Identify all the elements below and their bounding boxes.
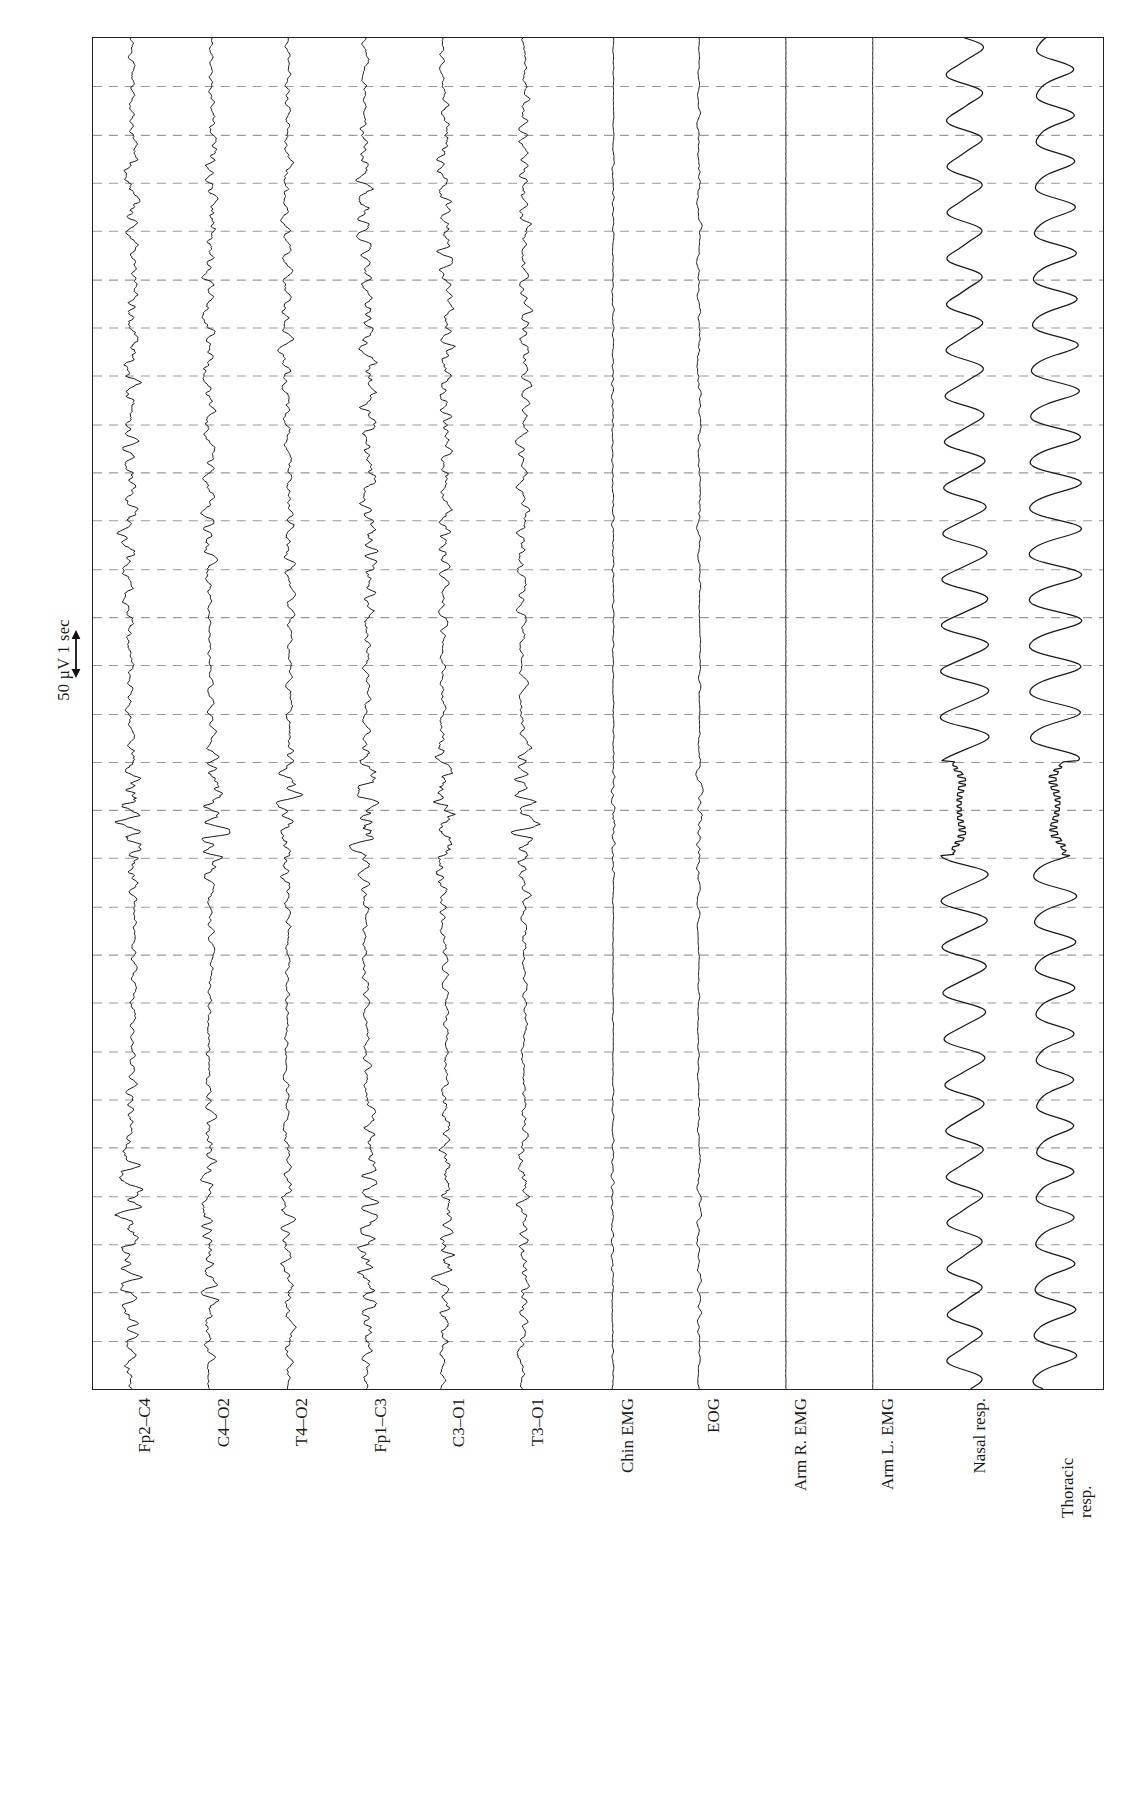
- trace-plot-area: [92, 37, 1104, 1390]
- channel-label-thoracic-resp: Thoracicresp.: [1059, 1398, 1096, 1518]
- channel-label-arm-r-emg: Arm R. EMG: [792, 1398, 810, 1491]
- trace-t3-o1: [511, 38, 540, 1389]
- channel-label-chin-emg: Chin EMG: [619, 1398, 637, 1473]
- trace-eog: [696, 38, 703, 1389]
- signal-traces: [93, 38, 1103, 1389]
- trace-c4-o2: [200, 38, 230, 1389]
- channel-label-eog: EOG: [705, 1398, 723, 1433]
- trace-fp1-c3: [349, 38, 379, 1389]
- double-headed-arrow-icon: [68, 630, 84, 678]
- channel-label-arm-l-emg: Arm L. EMG: [879, 1398, 897, 1490]
- channel-label-c3-o1: C3–O1: [450, 1398, 468, 1447]
- channel-label-line2: resp.: [1078, 1398, 1096, 1518]
- channel-label-line1: Thoracic: [1058, 1458, 1077, 1518]
- trace-thoracic-resp: [1029, 38, 1081, 1389]
- channel-label-nasal-resp: Nasal resp.: [971, 1398, 989, 1474]
- trace-nasal-resp: [940, 38, 989, 1389]
- channel-label-t3-o1: T3–O1: [529, 1398, 547, 1446]
- figure-canvas: 50 µV 1 sec Fp2–C4C4–O2T4–O2Fp1–C3C3–O1T…: [0, 0, 1131, 1819]
- trace-c3-o1: [431, 38, 455, 1389]
- channel-label-row: Fp2–C4C4–O2T4–O2Fp1–C3C3–O1T3–O1Chin EMG…: [92, 1398, 1104, 1628]
- channel-label-fp2-c4: Fp2–C4: [136, 1398, 154, 1453]
- trace-chin-emg: [611, 38, 615, 1389]
- trace-fp2-c4: [115, 38, 143, 1389]
- channel-label-fp1-c3: Fp1–C3: [372, 1398, 390, 1453]
- trace-t4-o2: [276, 38, 302, 1389]
- calibration-marker: 50 µV 1 sec: [28, 590, 98, 760]
- channel-label-c4-o2: C4–O2: [215, 1398, 233, 1447]
- channel-label-t4-o2: T4–O2: [293, 1398, 311, 1446]
